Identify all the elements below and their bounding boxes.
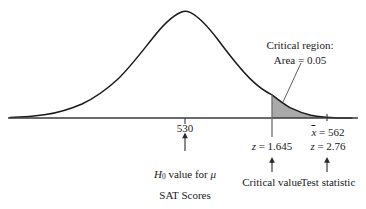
xbar-value: = 562 bbox=[319, 126, 344, 138]
test-z-value: = 2.76 bbox=[315, 140, 346, 152]
mean-value-label: 530 bbox=[177, 122, 194, 135]
xbar-value-label: x = 562 bbox=[311, 126, 344, 139]
mu-symbol: μ bbox=[211, 168, 217, 180]
arrow-test-statistic bbox=[324, 157, 330, 172]
critical-region-label: Critical region: bbox=[267, 38, 334, 53]
critical-region-leader-line bbox=[283, 63, 301, 102]
test-statistic-caption: Test statistic bbox=[301, 176, 356, 189]
critical-z-label: z = 1.645 bbox=[252, 140, 293, 153]
arrow-critical-value bbox=[269, 157, 275, 172]
h0-caption: H0 value for μ bbox=[154, 168, 216, 182]
h0-text: value for bbox=[168, 168, 207, 180]
critical-value-caption: Critical value bbox=[242, 176, 302, 189]
xbar-symbol: x bbox=[311, 126, 316, 139]
axis-caption: SAT Scores bbox=[159, 189, 210, 202]
arrow-null-mean bbox=[182, 133, 188, 152]
critical-region-area-label: Area = 0.05 bbox=[267, 53, 334, 68]
h0-symbol: H0 bbox=[154, 168, 166, 180]
test-z-label: z = 2.76 bbox=[310, 140, 345, 153]
critical-region-shading bbox=[272, 95, 352, 118]
critical-z-value: = 1.645 bbox=[256, 140, 292, 152]
critical-region-annotation: Critical region: Area = 0.05 bbox=[267, 38, 334, 68]
normal-distribution-chart: Critical region: Area = 0.05 530 z = 1.6… bbox=[0, 0, 366, 209]
